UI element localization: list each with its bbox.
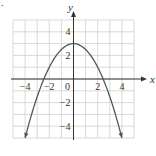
svg-text:2: 2: [66, 50, 71, 61]
axes: [11, 11, 147, 140]
parabola-graph: . −4−202442−2−4 x y: [0, 0, 156, 156]
y-axis-label: y: [67, 1, 73, 13]
svg-text:0: 0: [65, 81, 70, 92]
svg-text:4: 4: [66, 26, 71, 37]
svg-text:−4: −4: [20, 81, 31, 92]
figure-marker: .: [1, 0, 4, 8]
x-axis-label: x: [149, 73, 155, 85]
svg-text:−2: −2: [44, 81, 55, 92]
svg-text:2: 2: [95, 81, 100, 92]
svg-text:−2: −2: [60, 97, 71, 108]
svg-text:4: 4: [119, 81, 124, 92]
svg-text:−4: −4: [60, 121, 71, 132]
